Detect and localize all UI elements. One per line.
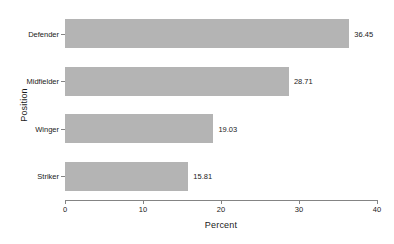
x-axis-tick-label: 10 [139,205,147,214]
y-axis-tick [61,176,65,177]
plot-area: Defender36.45Midfielder28.71Winger19.03S… [65,10,377,200]
x-axis-title: Percent [65,220,377,230]
category-label: Striker [37,172,59,181]
category-label: Midfielder [26,77,59,86]
bar-row: Defender36.45 [65,19,377,48]
x-axis-tick [221,200,222,204]
bar-value-label: 15.81 [188,172,212,181]
bar-value-label: 19.03 [213,124,237,133]
bar-value-label: 28.71 [289,77,313,86]
bar[interactable] [65,19,349,48]
bar-row: Striker15.81 [65,162,377,191]
x-axis-tick-label: 30 [295,205,303,214]
bar-row: Winger19.03 [65,114,377,143]
bar[interactable] [65,162,188,191]
y-axis-title-text: Position [16,10,32,200]
x-axis-tick [65,200,66,204]
category-label: Winger [35,124,59,133]
x-axis-tick [377,200,378,204]
bar-row: Midfielder28.71 [65,67,377,96]
x-axis-tick [143,200,144,204]
x-axis-tick-label: 20 [217,205,225,214]
bar[interactable] [65,67,289,96]
x-axis-tick [299,200,300,204]
y-axis-tick [61,81,65,82]
bar-value-label: 36.45 [349,29,373,38]
x-axis-tick-label: 40 [373,205,381,214]
x-axis-tick-label: 0 [63,205,67,214]
bar-chart: Position Defender36.45Midfielder28.71Win… [0,0,394,244]
y-axis-tick [61,34,65,35]
y-axis-tick [61,129,65,130]
bar[interactable] [65,114,213,143]
category-label: Defender [28,29,59,38]
